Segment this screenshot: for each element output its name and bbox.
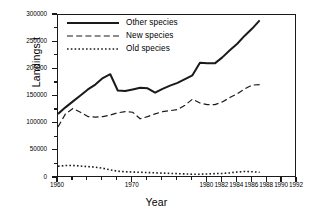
x-tick-minor [116,177,117,180]
x-tick-minor [176,177,177,180]
legend-swatch-dashed [67,32,119,40]
x-tick-label: 1988 [259,182,273,188]
x-tick-minor [161,177,162,180]
x-tick-label: 1980 [199,182,213,188]
x-tick-label: 1984 [229,182,243,188]
chart-legend: Other speciesNew speciesOld species [67,17,178,56]
legend-item: Other species [67,17,178,28]
x-tick-label: 1960 [50,182,64,188]
chart-figure: Landings t 05000010000015000020000025000… [0,0,313,217]
x-tick-label: 1986 [244,182,258,188]
legend-label: Other species [126,18,178,27]
x-tick-minor [86,177,87,180]
x-tick-label: 1990 [274,182,288,188]
x-tick-label: 1970 [125,182,139,188]
x-axis-title: Year [0,196,313,208]
x-tick-minor [101,177,102,180]
x-tick-minor [71,177,72,180]
x-tick-label: 1982 [214,182,228,188]
legend-swatch-solid [67,19,119,27]
legend-swatch-dotted [67,45,119,53]
x-tick-minor [191,177,192,180]
legend-item: New species [67,30,178,41]
legend-label: New species [126,31,174,40]
x-tick-minor [146,177,147,180]
legend-label: Old species [126,44,170,53]
x-tick-label: 1992 [289,182,303,188]
legend-item: Old species [67,43,178,54]
